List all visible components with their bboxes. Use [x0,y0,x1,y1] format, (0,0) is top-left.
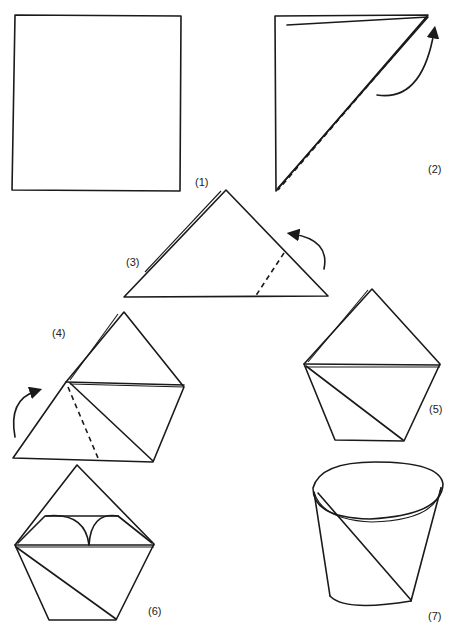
step-2-diagonal-fold [275,15,434,191]
step-label-7: (7) [428,610,441,622]
step-4-fold [13,312,184,462]
step-7-cup [313,462,443,605]
step-label-5: (5) [429,403,442,415]
step-label-2: (2) [428,163,441,175]
step-6-flaps-down [15,465,154,620]
step-1-square [12,15,181,191]
step-label-4: (4) [52,327,65,339]
step-label-3: (3) [126,256,139,268]
step-label-1: (1) [195,176,208,188]
step-label-6: (6) [148,605,161,617]
step-3-triangle [124,190,328,297]
step-5-pentagon [304,289,440,441]
origami-diagram [0,0,456,628]
